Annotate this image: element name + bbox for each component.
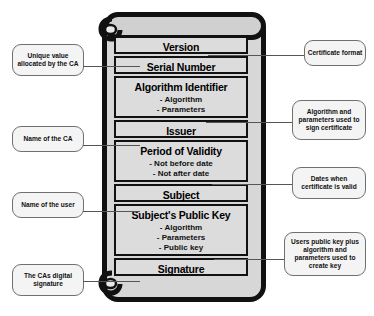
callout-text: Name of the CA bbox=[23, 135, 72, 143]
field-signature: Signature bbox=[114, 258, 248, 276]
field-sublist: - Not before date - Not after date bbox=[118, 159, 244, 179]
field-serial-number: Serial Number bbox=[114, 56, 248, 74]
callout-algorithm-identifier: Algorithm and parameters used to sign ce… bbox=[292, 100, 366, 140]
leader-line-issuer bbox=[83, 145, 140, 146]
callout-serial-number: Unique value allocated by the CA bbox=[12, 44, 84, 76]
leader-line-version bbox=[208, 55, 304, 56]
leader-line-signature bbox=[83, 281, 140, 282]
callout-text: Unique value allocated by the CA bbox=[15, 52, 81, 68]
field-subitem: - Algorithm bbox=[118, 223, 244, 233]
field-subitem: - Not after date bbox=[118, 169, 244, 179]
field-subject: Subject bbox=[114, 184, 248, 202]
leader-line-subject bbox=[83, 211, 140, 212]
leader-line-serial bbox=[83, 66, 140, 67]
callout-issuer: Name of the CA bbox=[12, 126, 84, 152]
callout-period-of-validity: Dates when certificate is valid bbox=[292, 167, 366, 199]
field-sublist: - Algorithm - Parameters - Public key bbox=[118, 223, 244, 253]
field-label: Period of Validity bbox=[118, 145, 244, 158]
field-subitem: - Parameters bbox=[118, 233, 244, 243]
callout-text: Certificate format bbox=[308, 49, 363, 57]
field-label: Version bbox=[118, 41, 244, 54]
field-label: Issuer bbox=[118, 125, 244, 138]
certificate-field-stack: Version Serial Number Algorithm Identifi… bbox=[114, 36, 248, 278]
field-subitem: - Parameters bbox=[118, 105, 244, 115]
field-label: Signature bbox=[118, 263, 244, 276]
certificate-structure-diagram: Version Serial Number Algorithm Identifi… bbox=[0, 0, 374, 316]
callout-text: Users public key plus algorithm and para… bbox=[287, 238, 363, 271]
field-subitem: - Algorithm bbox=[118, 95, 244, 105]
leader-line-period-of-validity bbox=[212, 184, 292, 185]
field-label: Subject bbox=[118, 189, 244, 202]
callout-subjects-public-key: Users public key plus algorithm and para… bbox=[284, 232, 366, 276]
field-sublist: - Algorithm - Parameters bbox=[118, 95, 244, 115]
field-label: Algorithm Identifier bbox=[118, 81, 244, 94]
callout-version: Certificate format bbox=[304, 40, 366, 66]
field-algorithm-identifier: Algorithm Identifier - Algorithm - Param… bbox=[114, 76, 248, 118]
callout-text: Algorithm and parameters used to sign ce… bbox=[295, 108, 363, 133]
field-period-of-validity: Period of Validity - Not before date - N… bbox=[114, 140, 248, 182]
leader-line-algorithm-identifier bbox=[206, 122, 292, 123]
callout-subject: Name of the user bbox=[12, 192, 84, 218]
field-subitem: - Public key bbox=[118, 243, 244, 253]
callout-text: Name of the user bbox=[21, 201, 75, 209]
callout-text: The CAs digital signature bbox=[15, 272, 81, 288]
field-subitem: - Not before date bbox=[118, 159, 244, 169]
field-label: Serial Number bbox=[118, 61, 244, 74]
callout-text: Dates when certificate is valid bbox=[295, 175, 363, 191]
field-version: Version bbox=[114, 36, 248, 54]
leader-line-subjects-public-key bbox=[214, 259, 284, 260]
callout-signature: The CAs digital signature bbox=[12, 264, 84, 296]
